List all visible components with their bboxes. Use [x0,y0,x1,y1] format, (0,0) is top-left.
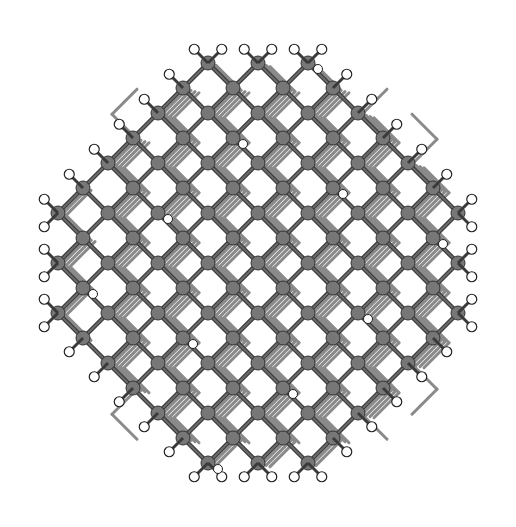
nanocrystal-figure [0,0,516,527]
